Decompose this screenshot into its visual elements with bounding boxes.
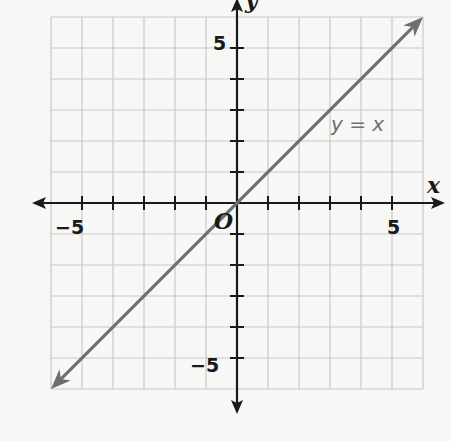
line-equation-label: y = x — [330, 112, 384, 136]
y-tick-label-5: 5 — [213, 32, 226, 54]
axes — [32, 0, 445, 414]
origin-label: O — [214, 208, 233, 234]
x-axis-label: x — [426, 172, 441, 198]
x-tick-label-5: 5 — [387, 216, 400, 238]
graph-canvas: x y O −5 5 5 −5 y = x — [0, 0, 451, 441]
y-axis-label: y — [244, 0, 260, 13]
coordinate-plane: x y O −5 5 5 −5 y = x — [0, 0, 451, 441]
y-tick-label-neg5: −5 — [190, 354, 219, 376]
x-tick-label-neg5: −5 — [55, 216, 84, 238]
